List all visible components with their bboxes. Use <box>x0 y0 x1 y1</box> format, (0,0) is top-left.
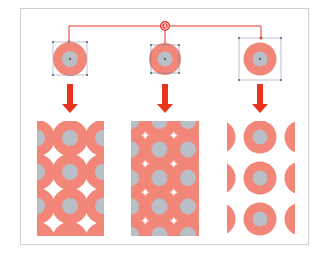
down-arrow-icon <box>157 84 173 113</box>
pattern-tiling-diagram: 4 <box>0 0 327 257</box>
down-arrow-icon <box>62 84 78 113</box>
tile-cropped[interactable] <box>149 43 181 75</box>
down-arrow-icon <box>252 84 268 113</box>
tile-padded[interactable] <box>238 37 282 81</box>
callout-badge: 4 <box>160 21 170 31</box>
tile-tight[interactable] <box>52 41 88 76</box>
pattern-filled <box>131 121 199 236</box>
pattern-spaced <box>203 121 318 237</box>
